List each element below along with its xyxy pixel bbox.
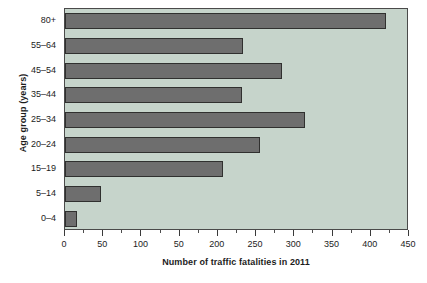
y-axis-tick-label: 5–14 bbox=[0, 188, 56, 198]
x-axis-tick-label: 100 bbox=[120, 239, 160, 249]
x-axis-tick-label: 350 bbox=[312, 239, 352, 249]
x-axis-minor-tick bbox=[236, 230, 237, 233]
x-axis-minor-tick bbox=[351, 230, 352, 233]
y-axis-tick-label: 45–54 bbox=[0, 65, 56, 75]
x-axis-major-tick bbox=[217, 230, 218, 236]
plot-area bbox=[64, 8, 408, 230]
bar bbox=[65, 63, 282, 79]
x-axis-major-tick bbox=[370, 230, 371, 236]
bar bbox=[65, 186, 101, 202]
bar bbox=[65, 161, 223, 177]
y-axis-tick-label: 80+ bbox=[0, 15, 56, 25]
y-axis-tick-label: 25–34 bbox=[0, 114, 56, 124]
x-axis-ticks bbox=[64, 230, 409, 238]
bar bbox=[65, 87, 242, 103]
y-axis-tick-label: 35–44 bbox=[0, 89, 56, 99]
x-axis-minor-tick bbox=[160, 230, 161, 233]
bar bbox=[65, 211, 77, 227]
bar-chart-figure: Age group (years) 0–45–1415–1920–2425–34… bbox=[0, 0, 427, 283]
x-axis-major-tick bbox=[255, 230, 256, 236]
y-axis-tick-label: 0–4 bbox=[0, 213, 56, 223]
y-axis-tick-label: 20–24 bbox=[0, 139, 56, 149]
x-axis-minor-tick bbox=[121, 230, 122, 233]
bar bbox=[65, 13, 386, 29]
x-axis-major-tick bbox=[102, 230, 103, 236]
bar bbox=[65, 38, 243, 54]
bar bbox=[65, 112, 305, 128]
x-axis-minor-tick bbox=[389, 230, 390, 233]
x-axis-tick-label: 400 bbox=[350, 239, 390, 249]
y-axis-tick-labels: 0–45–1415–1920–2425–3435–4445–5455–6480+ bbox=[0, 8, 62, 230]
x-axis-tick-label: 0 bbox=[44, 239, 84, 249]
x-axis-tick-labels: 05010050200250300350400450 bbox=[0, 239, 427, 253]
x-axis-tick-label: 50 bbox=[159, 239, 199, 249]
bar bbox=[65, 137, 260, 153]
x-axis-major-tick bbox=[179, 230, 180, 236]
x-axis-major-tick bbox=[140, 230, 141, 236]
x-axis-title: Number of traffic fatalities in 2011 bbox=[64, 257, 408, 267]
y-axis-tick-label: 15–19 bbox=[0, 163, 56, 173]
x-axis-major-tick bbox=[64, 230, 65, 236]
x-axis-tick-label: 50 bbox=[82, 239, 122, 249]
x-axis-major-tick bbox=[408, 230, 409, 236]
x-axis-major-tick bbox=[293, 230, 294, 236]
x-axis-tick-label: 200 bbox=[197, 239, 237, 249]
x-axis-major-tick bbox=[332, 230, 333, 236]
x-axis-tick-label: 300 bbox=[273, 239, 313, 249]
x-axis-minor-tick bbox=[274, 230, 275, 233]
x-axis-minor-tick bbox=[198, 230, 199, 233]
x-axis-tick-label: 250 bbox=[235, 239, 275, 249]
x-axis-tick-label: 450 bbox=[388, 239, 427, 249]
x-axis-minor-tick bbox=[312, 230, 313, 233]
y-axis-tick-label: 55–64 bbox=[0, 40, 56, 50]
x-axis-minor-tick bbox=[83, 230, 84, 233]
